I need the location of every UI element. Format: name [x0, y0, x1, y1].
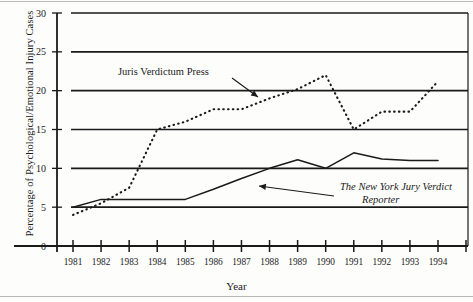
y-axis-ticks: 051015202530 — [36, 8, 62, 252]
gridlines — [71, 13, 468, 246]
x-axis-title: Year — [0, 280, 473, 292]
x-tick-label: 1993 — [401, 257, 420, 267]
series-annotation-label-line2: Reporter — [361, 194, 400, 205]
x-axis: 1981198219831984198519861987198819891990… — [14, 240, 468, 267]
series-annotation-label: The New York Jury Verdict — [340, 181, 453, 192]
x-tick-label: 1990 — [316, 257, 335, 267]
chart-figure: Percentage of Psychological/Emotional In… — [0, 0, 473, 302]
x-tick-label: 1991 — [344, 257, 363, 267]
x-tick-label: 1985 — [176, 257, 195, 267]
x-tick-label: 1992 — [373, 257, 392, 267]
x-tick-label: 1983 — [120, 257, 139, 267]
plot-area: 051015202530 198119821983198419851986198… — [0, 0, 473, 302]
x-tick-label: 1984 — [148, 257, 167, 267]
x-tick-label: 1994 — [429, 257, 448, 267]
y-tick-label: 20 — [36, 85, 46, 96]
x-tick-label: 1981 — [64, 257, 83, 267]
y-tick-label: 25 — [36, 46, 46, 57]
series-annotation-label: Juris Verdictum Press — [118, 66, 209, 77]
x-tick-label: 1989 — [288, 257, 307, 267]
y-tick-label: 5 — [41, 202, 46, 213]
y-tick-label: 10 — [36, 163, 46, 174]
y-tick-label: 15 — [36, 124, 46, 135]
annotation-leader-line — [259, 186, 334, 196]
x-tick-label: 1986 — [204, 257, 223, 267]
x-tick-label: 1982 — [92, 257, 111, 267]
x-tick-label: 1988 — [260, 257, 279, 267]
y-tick-label: 30 — [36, 8, 46, 19]
x-tick-label: 1987 — [232, 257, 251, 267]
annotation-arrow-head — [259, 184, 266, 190]
annotation-layer: Juris Verdictum PressThe New York Jury V… — [118, 66, 453, 205]
annotation-arrow-head — [251, 90, 258, 97]
